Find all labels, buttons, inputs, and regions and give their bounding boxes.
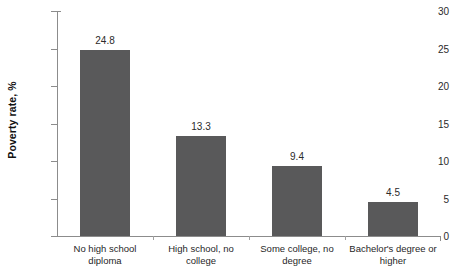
x-axis-category-label: Some college, nodegree bbox=[248, 243, 346, 267]
x-axis-category-label-line: higher bbox=[344, 255, 442, 267]
y-axis-tick bbox=[51, 86, 57, 87]
x-axis-category-label-line: college bbox=[152, 255, 250, 267]
y-axis-tick bbox=[51, 199, 57, 200]
y-axis-tick-label: 0 bbox=[412, 231, 458, 242]
y-axis-tick bbox=[51, 161, 57, 162]
y-axis-tick-label: 15 bbox=[412, 118, 458, 129]
bar-value-label: 13.3 bbox=[171, 121, 231, 132]
y-axis-title-text: Poverty rate, % bbox=[6, 81, 18, 158]
x-axis-separator-tick bbox=[153, 236, 154, 240]
x-axis-separator-tick bbox=[249, 236, 250, 240]
y-axis-tick bbox=[51, 11, 57, 12]
x-axis-separator-tick bbox=[345, 236, 346, 240]
bar bbox=[368, 202, 418, 236]
x-axis-category-label-line: Some college, no bbox=[248, 243, 346, 255]
x-axis-category-label-line: High school, no bbox=[152, 243, 250, 255]
y-axis-tick-label: 30 bbox=[412, 6, 458, 17]
bar bbox=[272, 166, 322, 237]
x-axis-category-label: No high schooldiploma bbox=[56, 243, 154, 267]
bar bbox=[80, 50, 130, 236]
y-axis-top-cap bbox=[57, 11, 61, 12]
x-axis-category-label-line: diploma bbox=[56, 255, 154, 267]
y-axis-tick-label: 10 bbox=[412, 156, 458, 167]
bar-chart: Poverty rate, % 051015202530 24.813.39.4… bbox=[0, 0, 458, 279]
bar-value-label: 9.4 bbox=[267, 151, 327, 162]
y-axis-line bbox=[57, 11, 58, 237]
x-axis-category-label: Bachelor's degree orhigher bbox=[344, 243, 442, 267]
bar bbox=[176, 136, 226, 236]
bar-value-label: 4.5 bbox=[363, 187, 423, 198]
bar-value-label: 24.8 bbox=[75, 35, 135, 46]
y-axis-tick-label: 25 bbox=[412, 43, 458, 54]
x-axis-category-label-line: No high school bbox=[56, 243, 154, 255]
x-axis-category-label: High school, nocollege bbox=[152, 243, 250, 267]
x-axis-category-label-line: degree bbox=[248, 255, 346, 267]
y-axis-tick bbox=[51, 124, 57, 125]
y-axis-tick bbox=[51, 236, 57, 237]
y-axis-title: Poverty rate, % bbox=[0, 0, 24, 240]
y-axis-tick-label: 20 bbox=[412, 81, 458, 92]
x-axis-category-label-line: Bachelor's degree or bbox=[344, 243, 442, 255]
y-axis-tick bbox=[51, 49, 57, 50]
